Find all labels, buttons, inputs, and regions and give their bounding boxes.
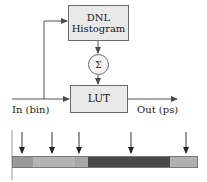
dnl-histogram-block[interactable]: DNL Histogram [68,5,129,41]
lut-label: LUT [88,93,110,105]
bin-segment-bin-5 [170,157,197,167]
bin-segment-bin-4 [88,157,170,167]
dnl-histogram-line2: Histogram [72,23,126,34]
lut-block[interactable]: LUT [70,85,128,113]
input-label: In (bin) [12,104,49,115]
bin-segment-bin-1 [13,157,33,167]
diagram-canvas: DNL Histogram Σ LUT In (bin) Out (ps) [0,0,207,182]
bin-segment-bin-3 [75,157,88,167]
bin-segment-bin-2 [33,157,75,167]
bin-bar [12,156,198,168]
sigma-icon: Σ [95,60,101,70]
output-label: Out (ps) [137,104,178,115]
summation-node[interactable]: Σ [88,54,109,75]
bin-arrow-group [22,132,186,153]
feedback-line [44,21,67,99]
dnl-histogram-line1: DNL [87,12,110,23]
